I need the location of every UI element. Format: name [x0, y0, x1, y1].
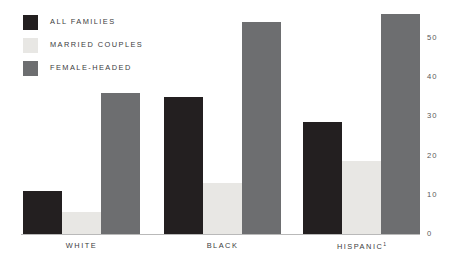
- x-axis-label-hispanic: HISPANIC1: [303, 242, 420, 251]
- x-axis-label-white: WHITE: [23, 242, 140, 249]
- x-axis-baseline: [21, 234, 420, 235]
- bar-black-married-couples: [203, 183, 242, 234]
- y-axis-tick-30: 30: [427, 112, 438, 120]
- x-axis-label-black: BLACK: [164, 242, 281, 249]
- bar-hispanic-all-families: [303, 122, 342, 234]
- bar-hispanic-female-headed: [381, 14, 420, 234]
- bar-white-married-couples: [62, 212, 101, 234]
- y-axis-tick-20: 20: [427, 152, 438, 160]
- plot-area: 50403020100 WHITEBLACKHISPANIC1: [0, 0, 454, 267]
- bar-chart: ALL FAMILIES MARRIED COUPLES FEMALE-HEAD…: [0, 0, 454, 267]
- bar-hispanic-married-couples: [342, 161, 381, 234]
- bar-white-all-families: [23, 191, 62, 234]
- y-axis-tick-50: 50: [427, 34, 438, 42]
- y-axis-tick-10: 10: [427, 191, 438, 199]
- footnote-marker: 1: [383, 241, 386, 247]
- bar-white-female-headed: [101, 93, 140, 234]
- y-axis-tick-40: 40: [427, 73, 438, 81]
- bar-black-female-headed: [242, 22, 281, 234]
- bar-black-all-families: [164, 97, 203, 234]
- y-axis-tick-0: 0: [427, 230, 432, 238]
